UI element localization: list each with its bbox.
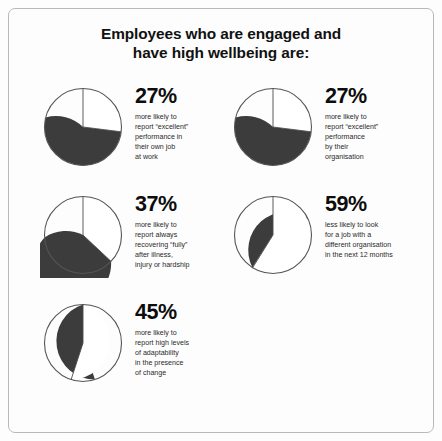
infographic-poster: Employees who are engaged and have high …	[0, 0, 442, 441]
caption-line: report high levels	[135, 338, 236, 348]
caption-line: in the next 12 months	[325, 250, 426, 260]
stat-percentage: 59%	[325, 194, 426, 216]
stat-block-adaptability: 45% more likely to report high levels of…	[40, 300, 236, 386]
caption-line: more likely to	[325, 112, 426, 122]
pie-chart-recovering-fully	[40, 192, 126, 278]
stats-row-3: 45% more likely to report high levels of…	[0, 300, 442, 408]
pie-chart-job-search-intent	[230, 192, 316, 278]
caption-line: after illness,	[135, 250, 236, 260]
caption-line: injury or hardship	[135, 260, 236, 270]
caption-line: report always	[135, 230, 236, 240]
caption-line: performance	[325, 132, 426, 142]
stat-block-performance-organisation: 27% more likely to report “excellent” pe…	[230, 84, 426, 170]
stat-percentage: 37%	[135, 194, 236, 216]
page-title-line-2: have high wellbeing are:	[28, 44, 414, 63]
caption-line: report “excellent”	[135, 122, 236, 132]
page-title: Employees who are engaged and have high …	[28, 25, 414, 63]
stat-block-job-search-intent: 59% less likely to look for a job with a…	[230, 192, 426, 278]
caption-line: more likely to	[135, 112, 236, 122]
pie-icon	[40, 300, 126, 386]
page-title-line-1: Employees who are engaged and	[28, 25, 414, 44]
stat-caption: more likely to report “excellent” perfor…	[325, 112, 426, 162]
pie-chart-performance-own-job	[40, 84, 126, 170]
caption-line: in the presence	[135, 358, 236, 368]
stats-row-2: 37% more likely to report always recover…	[0, 192, 442, 300]
stats-grid: 27% more likely to report “excellent” pe…	[0, 84, 442, 408]
stat-copy: 27% more likely to report “excellent” pe…	[126, 84, 236, 162]
pie-icon	[40, 192, 126, 278]
caption-line: recovering “fully”	[135, 240, 236, 250]
stat-percentage: 27%	[325, 86, 426, 108]
stat-caption: less likely to look for a job with a dif…	[325, 220, 426, 260]
caption-line: more likely to	[135, 220, 236, 230]
caption-line: different organisation	[325, 240, 426, 250]
stats-row-1: 27% more likely to report “excellent” pe…	[0, 84, 442, 192]
caption-line: organisation	[325, 152, 426, 162]
stat-copy: 59% less likely to look for a job with a…	[316, 192, 426, 260]
stat-caption: more likely to report high levels of ada…	[135, 328, 236, 378]
caption-line: by their	[325, 142, 426, 152]
caption-line: less likely to look	[325, 220, 426, 230]
pie-chart-adaptability	[40, 300, 126, 386]
pie-icon	[230, 192, 316, 278]
stat-caption: more likely to report always recovering …	[135, 220, 236, 270]
stat-percentage: 45%	[135, 302, 236, 324]
pie-chart-performance-organisation	[230, 84, 316, 170]
stat-block-recovering-fully: 37% more likely to report always recover…	[40, 192, 236, 278]
caption-line: for a job with a	[325, 230, 426, 240]
caption-line: at work	[135, 152, 236, 162]
stat-caption: more likely to report “excellent” perfor…	[135, 112, 236, 162]
caption-line: of adaptability	[135, 348, 236, 358]
stat-copy: 37% more likely to report always recover…	[126, 192, 236, 270]
caption-line: their own job	[135, 142, 236, 152]
stat-copy: 27% more likely to report “excellent” pe…	[316, 84, 426, 162]
stat-percentage: 27%	[135, 86, 236, 108]
stat-copy: 45% more likely to report high levels of…	[126, 300, 236, 378]
caption-line: of change	[135, 368, 236, 378]
caption-line: more likely to	[135, 328, 236, 338]
stat-block-performance-own-job: 27% more likely to report “excellent” pe…	[40, 84, 236, 170]
pie-icon	[40, 84, 126, 170]
caption-line: performance in	[135, 132, 236, 142]
caption-line: report “excellent”	[325, 122, 426, 132]
pie-icon	[230, 84, 316, 170]
